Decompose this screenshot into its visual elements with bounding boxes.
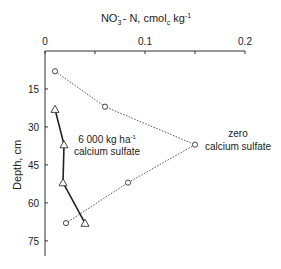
svg-text:calcium sulfate: calcium sulfate bbox=[74, 146, 141, 157]
y-tick-label: 30 bbox=[28, 122, 40, 133]
x-tick-label: 0.1 bbox=[138, 36, 152, 47]
data-point-circle bbox=[125, 180, 130, 185]
x-tick-label: 0 bbox=[42, 36, 48, 47]
y-axis-label: Depth, cm bbox=[11, 140, 23, 190]
data-point-circle bbox=[52, 69, 57, 74]
x-tick-label: 0.2 bbox=[238, 36, 252, 47]
chart: NO3- - N, cmolc kg-1 00.10.21530456075 D… bbox=[0, 0, 281, 269]
y-tick-label: 45 bbox=[28, 160, 40, 171]
data-point-triangle bbox=[60, 141, 68, 148]
series-line bbox=[55, 109, 85, 223]
svg-text:zero: zero bbox=[228, 128, 248, 139]
data-point-circle bbox=[102, 104, 107, 109]
svg-text:NO3- - N, cmolc kg-1: NO3- - N, cmolc kg-1 bbox=[101, 12, 191, 26]
data-point-circle bbox=[192, 142, 197, 147]
annotation-6000-calcium-sulfate: 6 000 kg ha-1 calcium sulfate bbox=[74, 134, 141, 157]
data-point-circle bbox=[63, 220, 68, 225]
data-point-triangle bbox=[59, 179, 67, 186]
annotation-zero-calcium-sulfate: zero calcium sulfate bbox=[205, 128, 272, 152]
svg-text:6 000 kg ha-1: 6 000 kg ha-1 bbox=[78, 134, 136, 145]
data-point-triangle bbox=[51, 105, 59, 112]
y-tick-label: 75 bbox=[28, 236, 40, 247]
y-tick-label: 15 bbox=[28, 84, 40, 95]
svg-text:calcium sulfate: calcium sulfate bbox=[205, 141, 272, 152]
y-tick-label: 60 bbox=[28, 198, 40, 209]
chart-title: NO3- - N, cmolc kg-1 bbox=[101, 12, 191, 26]
data-point-triangle bbox=[81, 219, 89, 226]
series-6000 bbox=[51, 105, 89, 226]
